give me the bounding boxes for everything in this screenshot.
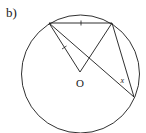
center-label: O bbox=[76, 77, 84, 89]
radius-ob bbox=[80, 23, 112, 72]
chord-ac bbox=[49, 23, 134, 97]
circle-diagram: O x bbox=[0, 0, 146, 133]
angle-label: x bbox=[120, 76, 125, 85]
circle bbox=[22, 15, 140, 133]
chord-bc bbox=[112, 23, 134, 97]
